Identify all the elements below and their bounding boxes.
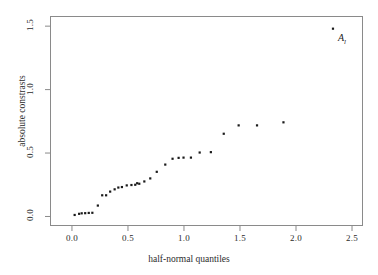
y-axis-label-wrapper: absolute constrasts (17, 31, 27, 191)
outlier-point-label: Al (338, 32, 346, 46)
x-tick-label: 2.5 (346, 233, 358, 243)
half-normal-plot-figure: 0.00.51.01.52.02.5 0.00.51.01.5 half-nor… (0, 0, 378, 275)
outlier-label-subscript: l (344, 38, 346, 46)
plot-area (50, 16, 363, 226)
x-axis-ticks (72, 226, 352, 231)
y-axis-label: absolute constrasts (17, 75, 27, 147)
x-tick-label: 0.5 (122, 233, 134, 243)
x-axis-label: half-normal quantiles (0, 254, 378, 264)
y-tick-label: 0.0 (25, 203, 35, 227)
x-tick-label: 2.0 (290, 233, 302, 243)
x-tick-label: 1.0 (178, 233, 190, 243)
x-tick-label: 0.0 (66, 233, 78, 243)
x-tick-label: 1.5 (234, 233, 246, 243)
